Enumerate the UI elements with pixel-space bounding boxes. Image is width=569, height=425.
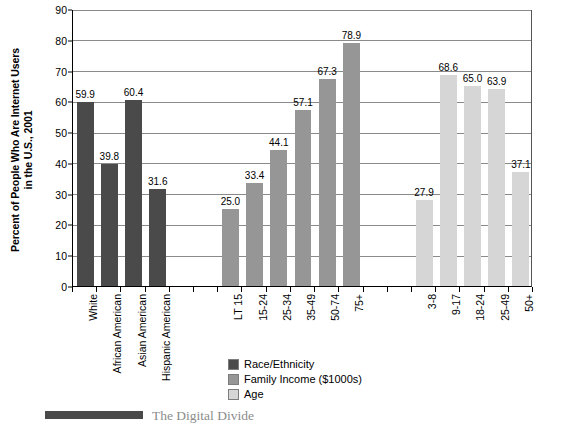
caption-strip: H The Digital Divide	[0, 408, 569, 425]
bar[interactable]	[440, 75, 457, 286]
bar-value-label: 78.9	[335, 31, 367, 41]
x-axis-tick-mark	[508, 287, 509, 292]
x-axis-tick-label: 35-49	[306, 294, 317, 321]
bar-value-label: 44.1	[263, 138, 295, 148]
bar-value-label: 67.3	[311, 67, 343, 77]
y-axis-tick-label: 10	[55, 251, 67, 261]
bar[interactable]	[125, 100, 142, 286]
x-axis-tick-label: White	[88, 294, 99, 321]
x-axis-tick-label: 18-24	[475, 294, 486, 321]
x-axis-tick-mark	[532, 287, 533, 292]
y-axis-ticks: 0102030405060708090	[46, 10, 72, 300]
y-axis-tick-label: 40	[55, 159, 67, 169]
x-axis-tick-mark	[435, 287, 436, 292]
x-axis-tick-mark	[363, 287, 364, 292]
x-axis-tick-label: LT 15	[233, 294, 244, 320]
x-axis-tick-mark	[72, 287, 73, 292]
caption-rule	[45, 411, 143, 419]
legend-swatch	[228, 374, 239, 385]
x-axis-tick-label: 25-34	[282, 294, 293, 321]
x-axis-tick-mark	[459, 287, 460, 292]
legend-label: Race/Ethnicity	[244, 358, 314, 370]
chart-legend: Race/EthnicityFamily Income ($1000s)Age	[228, 357, 428, 402]
legend-item[interactable]: Age	[228, 387, 428, 401]
bar-value-label: 27.9	[408, 188, 440, 198]
y-axis-title-line-1: Percent of People Who Are Internet Users	[9, 48, 22, 252]
x-axis-tick-mark	[338, 287, 339, 292]
legend-label: Age	[244, 388, 264, 400]
bar-value-label: 31.6	[142, 177, 174, 187]
x-axis-tick-mark	[193, 287, 194, 292]
x-axis-tick-mark	[290, 287, 291, 292]
x-axis-tick-label: Asian American	[137, 294, 148, 367]
bar-value-label: 59.9	[69, 90, 101, 100]
y-axis-tick-label: 70	[55, 67, 67, 77]
bar[interactable]	[343, 43, 360, 286]
x-axis-tick-label: 25-49	[500, 294, 511, 321]
x-axis-tick-label: 9-17	[451, 294, 462, 315]
bar-value-label: 63.9	[481, 77, 513, 87]
bar[interactable]	[512, 172, 529, 286]
x-axis-tick-label: 3-8	[427, 294, 438, 309]
bar[interactable]	[270, 150, 287, 286]
bar[interactable]	[319, 79, 336, 286]
caption-text: The Digital Divide	[152, 408, 254, 423]
plot-frame: 59.939.860.431.625.033.444.157.167.378.9…	[72, 10, 532, 287]
bar[interactable]	[222, 209, 239, 286]
y-axis-tick-label: 20	[55, 220, 67, 230]
x-axis-tick-label: 50-74	[330, 294, 341, 321]
bar-value-label: 39.8	[93, 152, 125, 162]
bar-value-label: 68.6	[432, 63, 464, 73]
legend-label: Family Income ($1000s)	[244, 373, 362, 385]
x-axis-tick-mark	[96, 287, 97, 292]
bar[interactable]	[416, 200, 433, 286]
bar[interactable]	[101, 164, 118, 286]
x-axis-tick-mark	[169, 287, 170, 292]
y-axis-tick-label: 60	[55, 97, 67, 107]
bar-value-label: 25.0	[214, 197, 246, 207]
x-axis-tick-label: African American	[112, 294, 123, 373]
bar-value-label: 60.4	[118, 88, 150, 98]
x-axis-tick-mark	[411, 287, 412, 292]
gridline	[73, 40, 531, 41]
bar[interactable]	[464, 86, 481, 286]
x-axis-tick-mark	[120, 287, 121, 292]
x-axis-tick-label: 50+	[524, 294, 535, 312]
bar-value-label: 37.1	[505, 160, 537, 170]
x-axis-tick-mark	[484, 287, 485, 292]
y-axis-tick-label: 0	[61, 282, 67, 292]
y-axis-tick-label: 90	[55, 5, 67, 15]
bar[interactable]	[149, 189, 166, 286]
chart-plot-area: 0102030405060708090 59.939.860.431.625.0…	[46, 10, 560, 300]
x-axis-tick-mark	[241, 287, 242, 292]
x-axis-tick-label: Hispanic American	[161, 294, 172, 381]
x-axis-tick-mark	[387, 287, 388, 292]
bar-value-label: 33.4	[239, 171, 271, 181]
x-axis-tick-label: 15-24	[258, 294, 269, 321]
legend-swatch	[228, 389, 239, 400]
x-axis-tick-mark	[314, 287, 315, 292]
legend-item[interactable]: Race/Ethnicity	[228, 357, 428, 371]
bar[interactable]	[77, 102, 94, 286]
y-axis-title: Percent of People Who Are Internet Users…	[0, 0, 44, 300]
bar[interactable]	[246, 183, 263, 286]
x-axis-tick-mark	[266, 287, 267, 292]
legend-swatch	[228, 359, 239, 370]
legend-item[interactable]: Family Income ($1000s)	[228, 372, 428, 386]
y-axis-tick-label: 80	[55, 36, 67, 46]
y-axis-tick-label: 30	[55, 190, 67, 200]
x-axis-tick-label: 75+	[354, 294, 365, 312]
y-axis-tick-label: 50	[55, 128, 67, 138]
x-axis-tick-mark	[145, 287, 146, 292]
x-axis-tick-mark	[217, 287, 218, 292]
bar[interactable]	[295, 110, 312, 286]
y-axis-title-line-2: in the U.S., 2001	[22, 48, 35, 252]
gridline	[73, 10, 531, 11]
bar-value-label: 57.1	[287, 98, 319, 108]
bar[interactable]	[488, 89, 505, 286]
